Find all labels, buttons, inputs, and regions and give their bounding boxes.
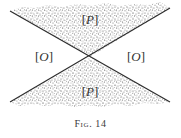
label-right-o: [O] [127, 50, 145, 64]
figure-14: [P] [O] [O] [P] Fig. 14 [0, 0, 181, 138]
bottom-shaded-region [10, 57, 170, 107]
label-top-p: [P] [82, 13, 99, 27]
label-bottom-p: [P] [82, 85, 99, 99]
label-left-o: [O] [35, 50, 53, 64]
figure-caption: Fig. 14 [0, 118, 181, 129]
